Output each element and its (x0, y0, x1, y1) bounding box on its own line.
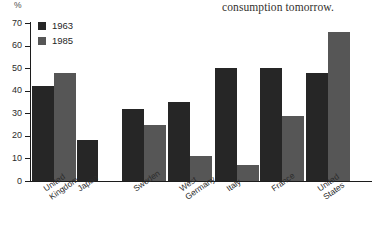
y-tick-mark (25, 23, 30, 24)
y-tick-label: 70 (0, 19, 22, 28)
y-axis-unit-label: % (14, 0, 22, 10)
y-tick-mark (25, 68, 30, 69)
y-tick-mark (25, 46, 30, 47)
bar (122, 109, 144, 181)
y-tick-label: 10 (0, 154, 22, 163)
legend-swatch-1985 (38, 37, 46, 45)
y-tick-mark (25, 136, 30, 137)
bar-chart: % 010203040506070 1963 1985 United Kingd… (0, 0, 374, 235)
y-tick-label: 0 (0, 177, 22, 186)
bar (215, 68, 237, 181)
legend-item-1963: 1963 (38, 19, 73, 32)
bar (168, 102, 190, 181)
bar (282, 116, 304, 181)
y-tick-label: 30 (0, 109, 22, 118)
legend-item-1985: 1985 (38, 34, 73, 47)
bar (237, 165, 259, 181)
legend-label-1963: 1963 (52, 21, 73, 31)
y-tick-label: 50 (0, 64, 22, 73)
bar (306, 73, 328, 181)
y-tick-mark (25, 91, 30, 92)
bar (328, 32, 350, 181)
y-tick-label: 20 (0, 131, 22, 140)
bar (260, 68, 282, 181)
bar (54, 73, 76, 181)
y-tick-mark (25, 181, 30, 182)
y-tick-label: 40 (0, 86, 22, 95)
legend-swatch-1963 (38, 22, 46, 30)
bar (32, 86, 54, 181)
y-axis-line (30, 22, 31, 182)
y-tick-label: 60 (0, 41, 22, 50)
legend-label-1985: 1985 (52, 36, 73, 46)
y-tick-mark (25, 158, 30, 159)
chart-legend: 1963 1985 (38, 19, 73, 49)
y-tick-mark (25, 113, 30, 114)
